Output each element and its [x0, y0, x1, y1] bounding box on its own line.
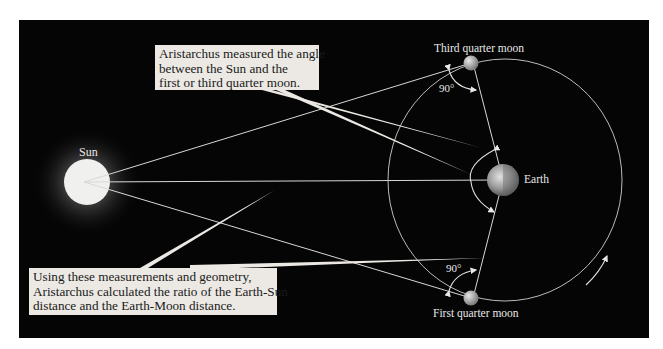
- angle-label-top: 90°: [439, 82, 454, 94]
- third-quarter-moon-label: Third quarter moon: [434, 42, 524, 54]
- callout-line: first or third quarter moon.: [159, 76, 315, 91]
- callout-line: Using these measurements and geometry,: [33, 270, 273, 285]
- callout-line: between the Sun and the: [159, 62, 315, 77]
- first-quarter-moon-icon: [464, 291, 479, 306]
- earth-label: Earth: [524, 173, 549, 185]
- first-quarter-moon-label: First quarter moon: [433, 307, 519, 319]
- callout-line: Aristarchus measured the angle: [159, 47, 315, 62]
- callout-line: distance and the Earth-Moon distance.: [33, 299, 273, 314]
- angle-label-bottom: 90°: [446, 262, 461, 274]
- callout-line: Aristarchus calculated the ratio of the …: [33, 285, 273, 300]
- sun-label: Sun: [79, 145, 98, 160]
- callout-calculation: Using these measurements and geometry, A…: [29, 268, 277, 315]
- orbit-direction-arrow-icon: [586, 256, 607, 285]
- third-quarter-moon-icon: [464, 56, 479, 71]
- callout-measurement: Aristarchus measured the angle between t…: [155, 45, 319, 90]
